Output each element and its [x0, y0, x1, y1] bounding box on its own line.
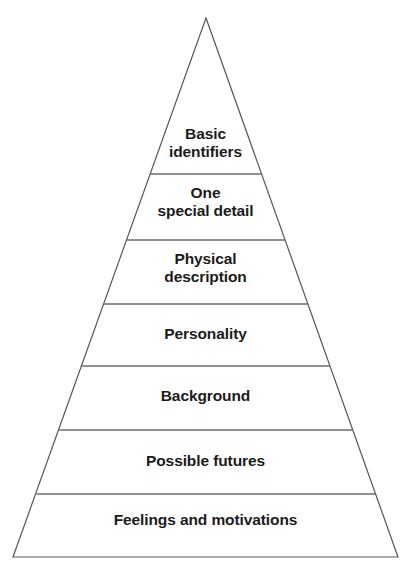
pyramid-diagram: Basic identifiers One special detail Phy… [0, 0, 411, 579]
pyramid-level-background: Background [0, 387, 411, 405]
pyramid-level-basic-identifiers: Basic identifiers [0, 125, 411, 160]
pyramid-level-personality: Personality [0, 325, 411, 343]
pyramid-outline-svg [0, 0, 411, 579]
pyramid-outline-shape [13, 18, 398, 557]
pyramid-level-possible-futures: Possible futures [0, 452, 411, 470]
pyramid-level-physical-description: Physical description [0, 250, 411, 285]
pyramid-level-one-special-detail: One special detail [0, 184, 411, 219]
pyramid-level-feelings-and-motivations: Feelings and motivations [0, 511, 411, 529]
